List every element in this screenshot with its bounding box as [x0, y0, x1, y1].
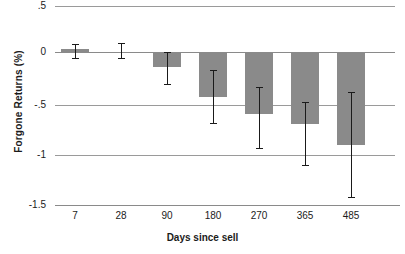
error-cap-485-lower — [348, 197, 355, 198]
error-cap-7-lower — [72, 58, 79, 59]
error-bar-180 — [213, 70, 214, 124]
error-cap-180-lower — [210, 123, 217, 124]
error-cap-270-lower — [256, 148, 263, 149]
error-bar-7 — [75, 44, 76, 58]
plot-area — [55, 0, 395, 206]
gridline-neg-one — [55, 155, 395, 156]
x-axis-line — [55, 205, 400, 206]
x-tick-label: 485 — [343, 210, 360, 221]
y-tick-label: -1.5 — [0, 199, 46, 210]
error-bar-28 — [121, 43, 122, 58]
error-bar-270 — [259, 87, 260, 149]
error-bar-485 — [351, 92, 352, 197]
error-cap-365-lower — [302, 165, 309, 166]
x-tick-label: 28 — [115, 210, 126, 221]
error-cap-28-lower — [118, 58, 125, 59]
error-bar-90 — [167, 52, 168, 84]
x-tick-label: 180 — [205, 210, 222, 221]
error-cap-90-upper — [164, 52, 171, 53]
error-cap-180-upper — [210, 70, 217, 71]
y-tick-label: .5 — [0, 0, 46, 11]
error-cap-28-upper — [118, 43, 125, 44]
y-tick-label: -.5 — [0, 99, 46, 110]
error-cap-365-upper — [302, 102, 309, 103]
x-tick-label: 365 — [297, 210, 314, 221]
error-bar-365 — [305, 102, 306, 166]
error-cap-7-upper — [72, 44, 79, 45]
y-tick-label: -1 — [0, 149, 46, 160]
error-cap-485-upper — [348, 92, 355, 93]
x-tick-label: 270 — [251, 210, 268, 221]
x-tick-label: 90 — [161, 210, 172, 221]
x-axis-title: Days since sell — [0, 232, 405, 243]
error-cap-90-lower — [164, 84, 171, 85]
error-cap-270-upper — [256, 87, 263, 88]
y-tick-label: 0 — [0, 46, 46, 57]
x-tick-label: 7 — [72, 210, 78, 221]
bar-chart: Forgone Returns (%) .5 0 -.5 -1 -1.5 728… — [0, 0, 405, 254]
gridline-top — [55, 6, 395, 7]
